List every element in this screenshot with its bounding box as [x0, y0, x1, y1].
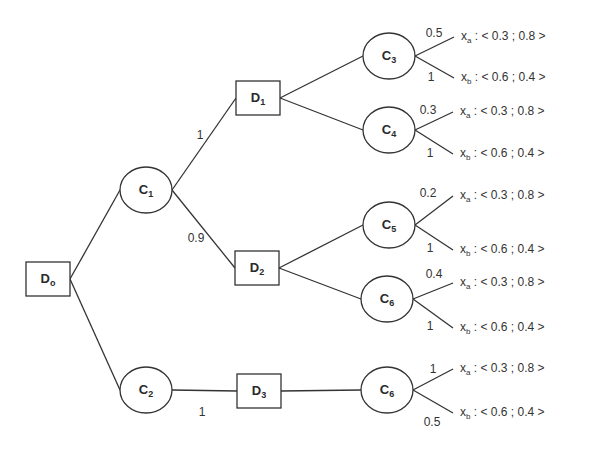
outcome-label: xb : < 0.6 ; 0.4 >: [460, 405, 545, 421]
outcome-value: : < 0.6 ; 0.4 >: [471, 70, 545, 84]
edge-D0-C1: [70, 190, 120, 279]
outcome-value: : < 0.6 ; 0.4 >: [470, 405, 544, 419]
outcome-value: : < 0.3 ; 0.8 >: [470, 188, 544, 202]
edge-weight: 0.9: [188, 231, 205, 245]
branch-weight: 1: [427, 319, 434, 333]
node-label: C2: [139, 382, 153, 399]
outcome-branch: [413, 390, 453, 413]
node-label: D1: [251, 90, 265, 107]
node-label: C4: [382, 122, 396, 139]
outcome-value: : < 0.3 ; 0.8 >: [470, 275, 544, 289]
outcome-value: : < 0.6 ; 0.4 >: [470, 320, 544, 334]
edge-D0-C2: [70, 279, 120, 390]
node-label: C5: [382, 217, 396, 234]
outcome-label: xb : < 0.6 ; 0.4 >: [460, 146, 545, 162]
branch-weight: 0.2: [420, 186, 437, 200]
edge-D2-C5: [279, 225, 363, 268]
outcome-value: : < 0.3 ; 0.8 >: [470, 361, 544, 375]
node-label: D3: [252, 383, 266, 400]
outcome-label: xb : < 0.6 ; 0.4 >: [461, 70, 546, 86]
outcome-branch: [415, 225, 453, 250]
branch-weight: 1: [427, 146, 434, 160]
node-label: D2: [250, 260, 264, 277]
node-label: Do: [41, 271, 56, 288]
node-label: C6: [380, 382, 394, 399]
edge-weight: 1: [199, 405, 206, 419]
edge-C1-D2: [172, 190, 235, 268]
node-label: C1: [139, 182, 153, 199]
outcome-value: : < 0.6 ; 0.4 >: [470, 146, 544, 160]
decision-tree-canvas: [0, 0, 604, 453]
outcome-label: xb : < 0.6 ; 0.4 >: [460, 320, 545, 336]
branch-weight: 0.4: [426, 267, 443, 281]
branch-weight: 1: [428, 70, 435, 84]
outcome-value: : < 0.3 ; 0.8 >: [471, 29, 545, 43]
branch-weight: 0.5: [426, 26, 443, 40]
outcome-label: xa : < 0.3 ; 0.8 >: [460, 188, 545, 204]
node-label: C6: [380, 291, 394, 308]
edge-D1-C4: [280, 98, 363, 130]
outcome-label: xa : < 0.3 ; 0.8 >: [461, 29, 546, 45]
outcome-value: : < 0.6 ; 0.4 >: [470, 242, 544, 256]
edge-C2-D3: [172, 390, 237, 391]
outcome-branch: [413, 283, 453, 299]
edge-D2-C6a: [279, 268, 361, 299]
edge-D1-C3: [280, 56, 363, 98]
outcome-value: : < 0.3 ; 0.8 >: [470, 104, 544, 118]
outcome-label: xb : < 0.6 ; 0.4 >: [460, 242, 545, 258]
outcome-label: xa : < 0.3 ; 0.8 >: [460, 361, 545, 377]
edge-C1-D1: [172, 98, 236, 190]
branch-weight: 1: [427, 241, 434, 255]
outcome-branch: [415, 130, 453, 154]
edge-D3-C6b: [281, 390, 361, 391]
edge-weight: 1: [197, 128, 204, 142]
branch-weight: 0.3: [420, 103, 437, 117]
outcome-branch: [415, 196, 453, 225]
outcome-label: xa : < 0.3 ; 0.8 >: [460, 275, 545, 291]
branch-weight: 1: [430, 362, 437, 376]
node-label: C3: [382, 48, 396, 65]
outcome-label: xa : < 0.3 ; 0.8 >: [460, 104, 545, 120]
branch-weight: 0.5: [424, 415, 441, 429]
